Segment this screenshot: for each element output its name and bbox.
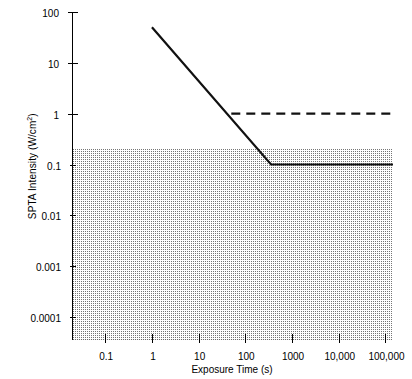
y-tick-10: 10 (68, 63, 78, 64)
x-tick-100: 100 (245, 334, 246, 343)
y-tick-100: 100 (68, 12, 78, 13)
x-tick-label: 10 (194, 351, 205, 362)
y-tick-label: 0.01 (42, 211, 61, 222)
y-tick-label: 10 (48, 58, 59, 69)
y-tick-label: 1 (53, 109, 59, 120)
x-tick-label: 10,000 (324, 351, 355, 362)
x-tick-label: 100 (238, 351, 255, 362)
y-tick-label: 100 (42, 8, 59, 19)
y-tick-label: 0.001 (36, 262, 61, 273)
series-layer (73, 12, 393, 340)
x-tick-10: 10 (199, 334, 200, 343)
x-tick-label: 0.1 (99, 351, 113, 362)
x-tick-100000: 100,000 (385, 334, 386, 343)
y-axis-label-exponent: 2 (26, 117, 33, 121)
x-tick-label: 100,000 (368, 351, 404, 362)
x-tick-10000: 10,000 (339, 334, 340, 343)
x-tick-label: 1 (150, 351, 156, 362)
y-tick-1: 1 (68, 114, 78, 115)
y-tick-label: 0.1 (47, 160, 61, 171)
x-tick-label: 1000 (282, 351, 304, 362)
series-line-solid (152, 27, 393, 164)
chart-root: SPTA Intensity (W/cm2) 1001010.10.010.00… (0, 0, 412, 379)
x-tick-0.1: 0.1 (105, 334, 106, 343)
x-tick-1000: 1000 (292, 334, 293, 343)
y-tick-0.001: 0.001 (70, 266, 76, 267)
y-tick-label: 0.0001 (30, 313, 61, 324)
y-axis-label: SPTA Intensity (W/cm2) (26, 66, 38, 266)
y-tick-0.1: 0.1 (70, 165, 76, 166)
y-axis-label-text: SPTA Intensity (W/cm (27, 121, 38, 220)
x-tick-1: 1 (152, 334, 153, 343)
x-axis-label: Exposure Time (s) (72, 364, 392, 375)
plot-frame: 1001010.10.010.0010.0001 0.1110100100010… (72, 12, 392, 340)
y-axis-label-tail: ) (27, 113, 38, 116)
y-tick-0.01: 0.01 (70, 215, 76, 216)
y-tick-0.0001: 0.0001 (70, 317, 76, 318)
